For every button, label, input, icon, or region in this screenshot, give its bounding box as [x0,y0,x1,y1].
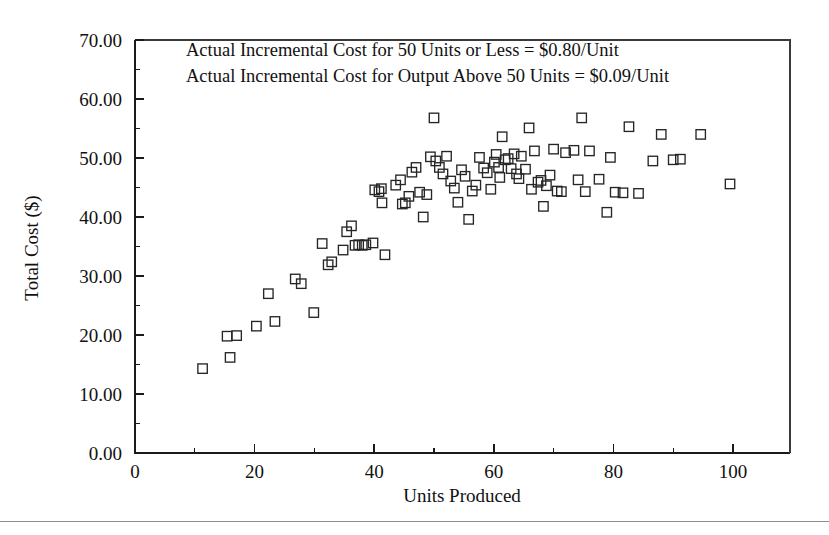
data-point-marker [549,144,558,153]
data-point-marker [380,250,389,259]
data-point-marker [585,146,594,155]
y-tick-label: 0.00 [89,443,122,464]
data-point-marker [648,156,657,165]
data-point-marker [377,198,386,207]
data-point-marker [350,241,359,250]
plot-canvas: 020406080100 0.0010.0020.0030.0040.0050.… [0,0,829,535]
data-point-marker [581,187,590,196]
data-point-marker [460,172,469,181]
data-point-marker [464,215,473,224]
data-point-marker [545,170,554,179]
data-point-marker [634,189,643,198]
data-point-marker [539,202,548,211]
data-point-marker [442,152,451,161]
data-point-marker [457,165,466,174]
y-tick-label: 70.00 [79,30,122,51]
data-point-marker [309,308,318,317]
y-tick-label: 30.00 [79,266,122,287]
chart-annotations: Actual Incremental Cost for 50 Units or … [186,40,670,86]
data-point-marker [517,152,526,161]
data-point-marker [453,198,462,207]
y-tick-label: 40.00 [79,207,122,228]
data-point-marker [468,186,477,195]
data-point-marker [435,163,444,172]
x-axis-tick-labels: 020406080100 [130,461,747,482]
annotation-line-1: Actual Incremental Cost for 50 Units or … [186,40,620,60]
y-tick-label: 50.00 [79,148,122,169]
axis-ticks [135,40,733,453]
data-point-marker [450,183,459,192]
x-axis-title: Units Produced [403,485,521,506]
data-point-marker [429,113,438,122]
data-point-marker [198,364,207,373]
data-point-marker [725,179,734,188]
data-point-marker [323,260,332,269]
data-point-marker [415,188,424,197]
data-point-marker [471,180,480,189]
data-point-marker [222,331,231,340]
data-point-marker [422,190,431,199]
data-point-marker [317,239,326,248]
data-point-marker [264,289,273,298]
annotation-line-2: Actual Incremental Cost for Output Above… [186,66,670,86]
data-point-marker [486,185,495,194]
data-point-marker [521,165,530,174]
data-point-marker [495,173,504,182]
data-point-marker [669,155,678,164]
data-point-marker [624,122,633,131]
y-axis-tick-labels: 0.0010.0020.0030.0040.0050.0060.0070.00 [79,30,122,464]
data-point-marker [338,245,347,254]
footer-divider [0,521,829,522]
data-point-marker [358,241,367,250]
x-tick-label: 100 [719,461,748,482]
x-tick-label: 0 [130,461,140,482]
x-tick-label: 60 [484,461,503,482]
data-point-marker [497,132,506,141]
data-point-marker [676,154,685,163]
data-point-marker [225,353,234,362]
data-point-marker [232,331,241,340]
data-points [198,113,735,373]
data-point-marker [602,208,611,217]
data-point-marker [419,212,428,221]
y-tick-label: 60.00 [79,89,122,110]
data-point-marker [577,113,586,122]
data-point-marker [252,321,261,330]
y-axis-title: Total Cost ($) [21,195,43,300]
x-tick-label: 40 [365,461,384,482]
data-point-marker [594,175,603,184]
scatter-chart-figure: 020406080100 0.0010.0020.0030.0040.0050.… [0,0,829,535]
data-point-marker [475,153,484,162]
data-point-marker [524,123,533,132]
data-point-marker [270,317,279,326]
plot-frame [135,40,790,453]
data-point-marker [657,130,666,139]
data-point-marker [573,175,582,184]
data-point-marker [527,185,536,194]
data-point-marker [354,240,363,249]
y-tick-label: 20.00 [79,325,122,346]
x-tick-label: 80 [604,461,623,482]
y-tick-label: 10.00 [79,384,122,405]
data-point-marker [530,146,539,155]
data-point-marker [606,153,615,162]
data-point-marker [696,130,705,139]
data-point-marker [327,257,336,266]
x-tick-label: 20 [245,461,264,482]
